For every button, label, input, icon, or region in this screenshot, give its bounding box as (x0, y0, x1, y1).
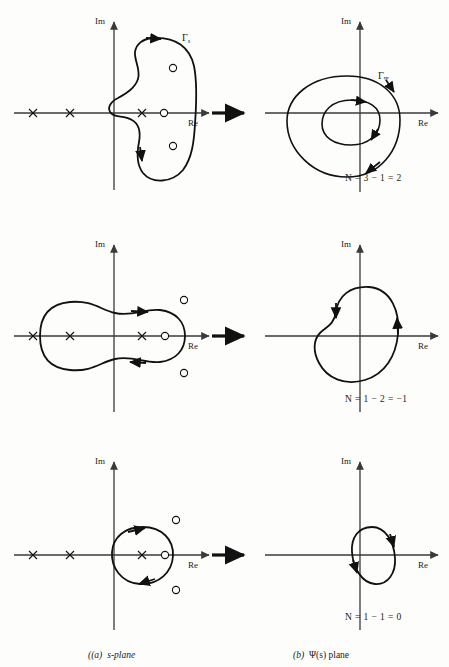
row-2-s-im-label: Im (95, 239, 105, 249)
nyquist-mapping-figure (0, 0, 449, 667)
row-2-psi-contour (315, 287, 399, 382)
row-2-psi-im-label: Im (341, 239, 351, 249)
direction-arrowhead (131, 311, 148, 312)
direction-arrowhead (353, 560, 357, 573)
row-1-s-re-label: Re (188, 118, 198, 128)
zero-circle-marker (180, 369, 187, 376)
direction-arrowhead (140, 147, 142, 161)
gamma-s-contour-label: Γs (182, 32, 190, 44)
row-1-zeros (160, 64, 176, 149)
row-1-s-contour (109, 38, 196, 181)
direction-arrowhead (371, 129, 378, 140)
direction-arrowhead (397, 318, 398, 334)
row-2-n-equation: N = 1 − 2 = −1 (345, 394, 407, 404)
row-2-psi-plane-axes (265, 245, 438, 412)
row-2-s-plane-axes (14, 245, 209, 412)
row-3-n-equation: N = 1 − 1 = 0 (345, 612, 402, 622)
row-1-s-plane-axes (14, 22, 209, 190)
row-3-s-im-label: Im (95, 456, 105, 466)
zero-circle-marker (161, 551, 168, 558)
row-2-s-re-label: Re (188, 341, 198, 351)
gamma-psi-contour-label: ΓΨ (378, 70, 389, 82)
row-1-psi-re-label: Re (418, 118, 428, 128)
zero-circle-marker (172, 586, 179, 593)
zero-circle-marker (169, 64, 176, 71)
direction-arrowhead (351, 100, 366, 102)
direction-arrowhead (130, 362, 146, 363)
row-2-psi-re-label: Re (418, 341, 428, 351)
row-1-psi-outer-loop (287, 76, 400, 177)
row-1-psi-plane-axes (265, 22, 438, 192)
zero-circle-marker (180, 296, 187, 303)
row-3-s-plane-axes (14, 462, 209, 630)
direction-arrowhead (146, 38, 161, 39)
caption-a: ((a)s-plane (88, 650, 135, 660)
row-1-s-im-label: Im (95, 16, 105, 26)
zero-circle-marker (169, 142, 176, 149)
zero-circle-marker (172, 516, 179, 523)
zero-circle-marker (160, 109, 167, 116)
row-1-psi-im-label: Im (341, 16, 351, 26)
row-3-psi-im-label: Im (341, 456, 351, 466)
row-3-psi-re-label: Re (418, 560, 428, 570)
row-3-s-re-label: Re (188, 560, 198, 570)
zero-circle-marker (161, 332, 168, 339)
caption-b: (b)Ψ(s) plane (293, 650, 349, 660)
row-1-n-equation: N = 3 − 1 = 2 (345, 173, 402, 183)
